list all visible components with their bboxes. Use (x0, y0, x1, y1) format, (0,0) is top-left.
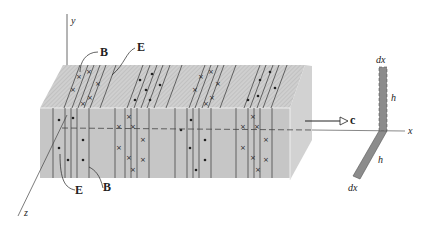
svg-text:×: × (215, 80, 221, 88)
svg-text:×: × (130, 166, 136, 174)
velocity-arrow: c (305, 113, 356, 127)
x-axis: x (312, 125, 413, 136)
svg-text:×: × (87, 94, 93, 102)
svg-text:×: × (198, 73, 204, 81)
label-E-front: E (75, 183, 83, 197)
svg-text:×: × (203, 100, 209, 108)
svg-text:×: × (250, 113, 256, 121)
svg-text:×: × (250, 154, 256, 162)
svg-text:×: × (240, 144, 246, 152)
svg-text:×: × (263, 136, 269, 144)
loop-h-upper-label: h (391, 92, 396, 103)
svg-text:×: × (86, 68, 92, 76)
svg-text:×: × (192, 86, 198, 94)
loop-dx-bottom-label: dx (348, 182, 358, 193)
svg-text:×: × (126, 113, 132, 121)
svg-text:×: × (255, 166, 261, 174)
loop-dx-top-label: dx (376, 54, 386, 65)
svg-text:×: × (116, 123, 122, 131)
svg-text:×: × (130, 123, 136, 131)
svg-text:×: × (76, 73, 82, 81)
svg-text:×: × (209, 94, 215, 102)
svg-text:×: × (95, 80, 101, 88)
svg-text:×: × (140, 136, 146, 144)
svg-text:×: × (208, 68, 214, 76)
svg-text:×: × (140, 156, 146, 164)
label-E-top: E (137, 40, 145, 54)
svg-text:×: × (70, 86, 76, 94)
loop-h-lower-label: h (378, 154, 383, 165)
y-axis-label: y (70, 15, 76, 26)
svg-text:×: × (263, 156, 269, 164)
svg-text:×: × (80, 100, 86, 108)
svg-text:×: × (116, 144, 122, 152)
label-B-top: B (100, 45, 108, 59)
z-axis-label: z (23, 207, 28, 218)
em-wave-diagram: y (0, 0, 434, 232)
label-B-front: B (103, 180, 111, 194)
velocity-label: c (350, 113, 356, 127)
x-axis-label: x (407, 125, 413, 136)
svg-text:×: × (126, 154, 132, 162)
